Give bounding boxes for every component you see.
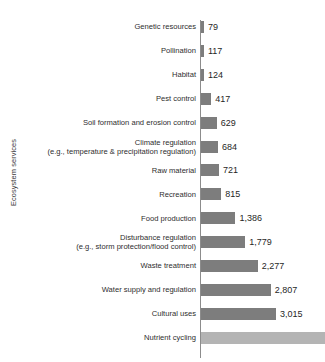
bar-row: 117 (201, 45, 222, 57)
bar-row: 1,779 (201, 236, 272, 248)
bar-value-label: 124 (208, 70, 223, 80)
bar (201, 236, 245, 248)
bar-row: 124 (201, 69, 223, 81)
category-label: Disturbance regulation (e.g., storm prot… (10, 233, 196, 251)
bar-row: 2,807 (201, 284, 297, 296)
bar-row: 79 (201, 21, 218, 33)
bar-value-label: 1,386 (239, 213, 262, 223)
category-label: Food production (10, 214, 196, 223)
bar-row: 629 (201, 117, 236, 129)
category-label: Genetic resources (10, 22, 196, 31)
category-label: Waste treatment (10, 261, 196, 270)
bar-row (201, 332, 325, 344)
bar-value-label: 417 (215, 94, 230, 104)
bar-value-label: 2,807 (275, 285, 298, 295)
bar-value-label: 721 (223, 165, 238, 175)
bar-row: 721 (201, 164, 238, 176)
bar-value-label: 629 (221, 118, 236, 128)
bar (201, 21, 204, 33)
plot-area: Genetic resources79Pollination117Habitat… (0, 0, 325, 362)
category-label: Pest control (10, 94, 196, 103)
bar (201, 308, 276, 320)
bar-row: 1,386 (201, 212, 262, 224)
bar-row: 3,015 (201, 308, 303, 320)
category-label: Raw material (10, 166, 196, 175)
bar-value-label: 79 (208, 22, 218, 32)
bar (201, 69, 204, 81)
bar-value-label: 1,779 (249, 237, 272, 247)
horizontal-bar-chart: Ecosystem services Genetic resources79Po… (0, 0, 325, 362)
bar-value-label: 117 (208, 46, 222, 56)
bar-row: 417 (201, 93, 230, 105)
bar-value-label: 2,277 (262, 261, 285, 271)
bar-value-label: 684 (222, 142, 237, 152)
bar (201, 45, 204, 57)
category-label: Pollination (10, 46, 196, 55)
bar (201, 284, 271, 296)
category-label: Soil formation and erosion control (10, 118, 196, 127)
bar-row: 684 (201, 141, 237, 153)
bar-row: 2,277 (201, 260, 284, 272)
category-label: Cultural uses (10, 309, 196, 318)
category-label: Climate regulation (e.g., temperature & … (10, 138, 196, 156)
bar (201, 141, 218, 153)
bar (201, 164, 219, 176)
bar (201, 188, 221, 200)
bar (201, 332, 325, 344)
bar-value-label: 815 (225, 189, 240, 199)
category-label: Recreation (10, 190, 196, 199)
category-label: Water supply and regulation (10, 285, 196, 294)
bar-value-label: 3,015 (280, 309, 303, 319)
category-label: Habitat (10, 70, 196, 79)
bar-row: 815 (201, 188, 240, 200)
bar (201, 93, 211, 105)
bar (201, 117, 217, 129)
category-label: Nutrient cycling (10, 333, 196, 342)
bar (201, 260, 258, 272)
bar (201, 212, 235, 224)
